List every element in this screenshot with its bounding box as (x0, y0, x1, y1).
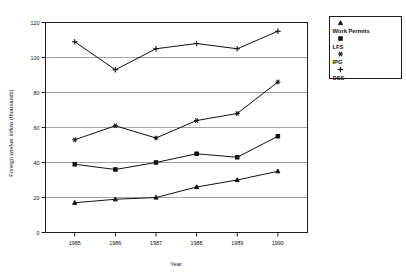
y-tick-label: 100 (31, 55, 40, 61)
marker-square (339, 37, 343, 41)
series-line (75, 31, 278, 70)
y-tick-label: 80 (34, 90, 40, 96)
legend-entry-label: Work Permits (333, 28, 370, 34)
data-series (72, 28, 281, 204)
marker-asterisk (153, 136, 158, 140)
x-tick-label: 1987 (150, 240, 162, 246)
marker-triangle-up (235, 178, 239, 182)
marker-asterisk (194, 118, 199, 122)
x-tick-label: 1989 (231, 240, 243, 246)
chart-figure: 020406080100120 198519861987198819891990… (0, 0, 406, 274)
x-tick-label: 1985 (69, 240, 81, 246)
marker-plus (275, 28, 281, 34)
marker-square (195, 152, 199, 156)
series-lfs (73, 135, 280, 172)
y-axis-title: Foreign worker inflow (thousands) (8, 89, 14, 176)
marker-triangle-up (73, 201, 77, 205)
y-axis-ticks (42, 23, 46, 233)
marker-asterisk (72, 138, 77, 142)
series-dss (72, 28, 281, 72)
x-tick-label: 1990 (272, 240, 284, 246)
y-tick-label: 20 (34, 195, 40, 201)
marker-square (154, 161, 158, 165)
chart-legend: Work PermitsLFSIPGDSS (330, 17, 402, 81)
marker-square (235, 156, 239, 160)
series-work-permits (73, 169, 280, 204)
marker-plus (194, 41, 200, 47)
marker-square (73, 163, 77, 167)
series-ipg (72, 80, 280, 142)
x-tick-label: 1988 (191, 240, 203, 246)
series-line (75, 82, 278, 140)
marker-plus (72, 39, 78, 45)
marker-plus (234, 46, 240, 52)
x-tick-label: 1986 (109, 240, 121, 246)
marker-square (114, 168, 118, 172)
x-axis-title: Year (170, 261, 182, 267)
x-axis-tick-labels: 198519861987198819891990 (69, 240, 284, 246)
y-axis-tick-labels: 020406080100120 (31, 20, 40, 236)
line-chart: 020406080100120 198519861987198819891990… (0, 0, 406, 274)
marker-plus (153, 46, 159, 52)
series-line (75, 171, 278, 203)
legend-entry-label: LFS (333, 44, 344, 50)
y-tick-label: 40 (34, 160, 40, 166)
series-line (75, 136, 278, 169)
y-tick-label: 0 (37, 230, 40, 236)
y-tick-label: 120 (31, 20, 40, 26)
legend-entry-label: DSS (333, 75, 345, 81)
marker-triangle-up (195, 185, 199, 189)
marker-square (276, 135, 280, 139)
y-tick-label: 60 (34, 125, 40, 131)
marker-triangle-up (154, 195, 158, 199)
marker-triangle-up (276, 169, 280, 173)
x-axis-ticks (75, 233, 278, 237)
legend-entry-label: IPG (333, 59, 343, 65)
